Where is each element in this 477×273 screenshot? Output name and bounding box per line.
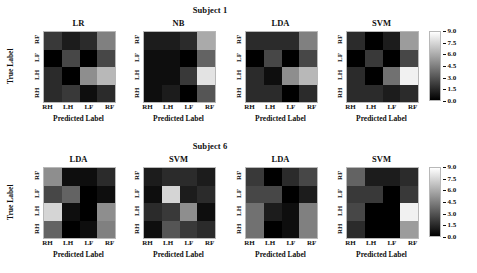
x-tick-labels: RH LH LF RF [239,239,322,247]
x-tick-labels: RH LH LF RF [37,103,120,111]
heatmap-cell [97,32,115,50]
x-axis-label: Predicted Label [233,114,328,123]
colorbar-tick-6: 9.0 [448,27,457,35]
y-tick-rh: RH [132,220,142,237]
heatmap-cell [383,32,401,50]
heatmap-cell [62,85,80,103]
heatmap-cell [62,221,80,239]
heatmap-cell [282,50,300,68]
heatmap-cell [197,221,215,239]
x-tick-rh: RH [138,103,156,111]
heatmap-cell [80,203,98,221]
x-tick-rh: RH [38,103,56,111]
y-tick-rf: RF [132,167,142,184]
heatmap-cell [400,168,418,186]
y-tick-labels: RF LF LH RH [234,167,244,237]
y-tick-lf: LF [132,49,142,66]
figure-row-subject-1: Subject 1 True Label LR RF LF LH RH RH L… [0,0,477,136]
heatmap-cell [264,67,282,85]
heatmap-cell [197,186,215,204]
heatmap-cell [144,203,162,221]
y-tick-labels: RF LF LH RH [335,167,345,237]
heatmap-cell [246,203,264,221]
colorbar-tick-labels: 0.0 1.5 3.0 4.5 6.0 7.5 9.0 [443,163,469,241]
heatmap-cell [180,50,198,68]
heatmap-cell [347,168,365,186]
colorbar-tick-5: 7.5 [448,39,457,47]
heatmap-cell [383,203,401,221]
heatmap-cell [62,168,80,186]
y-tick-rh: RH [234,220,244,237]
x-tick-lf: LF [180,103,198,111]
heatmap-cell [365,203,383,221]
panel-title-lr: LR [35,18,122,28]
heatmap-cell [365,67,383,85]
x-tick-lf: LF [282,103,300,111]
heatmap-cell [365,168,383,186]
heatmap-cell [365,50,383,68]
confusion-matrix-figure: Subject 1 True Label LR RF LF LH RH RH L… [0,0,477,273]
heatmap-cell [347,221,365,239]
y-tick-rh: RH [32,220,42,237]
heatmap-cell [144,168,162,186]
x-tick-labels: RH LH LF RF [340,103,423,111]
colorbar-row-1: 0.0 1.5 3.0 4.5 6.0 7.5 9.0 [429,167,441,237]
heatmap-cell [44,67,62,85]
heatmap-cell [299,50,317,68]
heatmap-cell [44,203,62,221]
x-tick-lf: LF [383,103,401,111]
colorbar-tick-3: 4.5 [448,62,457,70]
heatmap-cell [97,186,115,204]
heatmap-cell [97,85,115,103]
x-tick-labels: RH LH LF RF [137,103,220,111]
heatmap-cell [246,32,264,50]
heatmap-cell [246,221,264,239]
heatmap-cell [282,85,300,103]
heatmap-cell [62,50,80,68]
panel-title-lda: LDA [237,18,324,28]
panel-title-nb: NB [135,18,222,28]
colorbar-tick-4: 6.0 [448,50,457,58]
heatmap-cell [299,32,317,50]
heatmap-cell [299,186,317,204]
y-tick-rh: RH [132,84,142,101]
x-tick-rh: RH [38,239,56,247]
heatmap-cell [162,50,180,68]
y-tick-labels: RF LF LH RH [132,167,142,237]
x-axis-label: Predicted Label [131,114,226,123]
heatmap-cell [144,32,162,50]
colorbar-tick-0: 0.0 [448,97,457,105]
figure-row-subject-6: Subject 6 True Label LDA RF LF LH RH RH … [0,136,477,272]
heatmap-cell [299,203,317,221]
heatmap-cell [347,32,365,50]
x-tick-lf: LF [180,239,198,247]
y-tick-rf: RF [234,31,244,48]
heatmap-cell [44,168,62,186]
heatmap-cell [97,221,115,239]
panel-title-svm: SVM [338,154,425,164]
heatmap-cell [180,85,198,103]
y-tick-lh: LH [234,66,244,83]
x-tick-rh: RH [341,103,359,111]
heatmap-cell [400,32,418,50]
heatmap-cell [180,67,198,85]
y-tick-rf: RF [132,31,142,48]
y-tick-lh: LH [234,202,244,219]
heatmap-grid [346,31,419,103]
x-tick-rh: RH [138,239,156,247]
x-tick-rh: RH [341,239,359,247]
y-tick-rh: RH [32,84,42,101]
panel-subject-6-lda: LDA RF LF LH RH RH LH LF RF Predicted La… [245,136,316,272]
heatmap-cell [400,50,418,68]
y-tick-lf: LF [234,185,244,202]
x-tick-rf: RF [404,239,422,247]
heatmap-grid [43,167,116,239]
y-axis-label-row-1: True Label [6,174,15,230]
y-tick-labels: RF LF LH RH [132,31,142,101]
heatmap-cell [80,67,98,85]
panel-subject-1-svm: SVM RF LF LH RH RH LH LF RF Predicted La… [346,0,417,136]
heatmap-cell [400,186,418,204]
colorbar-gradient [429,167,441,237]
heatmap-cell [383,50,401,68]
y-tick-lf: LF [32,185,42,202]
